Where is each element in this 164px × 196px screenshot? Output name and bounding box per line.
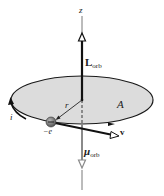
mu-orb-label: μorb [84,146,99,159]
L-orb-label: Lorb [85,57,102,70]
velocity-vector [55,123,113,135]
z-axis-label: z [79,6,83,15]
mu-orb-arrowhead [79,160,86,168]
mu-orb-subscript: orb [90,151,99,159]
velocity-label: v [120,128,125,137]
radius-label: r [65,101,69,110]
electron-charge-label: −e [43,128,52,136]
orbit-direction-arrowhead [108,123,115,127]
diagram-canvas [0,0,164,196]
L-orb-subscript: orb [92,62,101,70]
orbital-moment-diagram: z Lorb r A i −e v μorb [0,0,164,196]
L-orb-arrowhead [79,33,86,41]
velocity-arrowhead [110,132,119,139]
area-label: A [117,99,124,110]
current-label: i [10,113,13,122]
